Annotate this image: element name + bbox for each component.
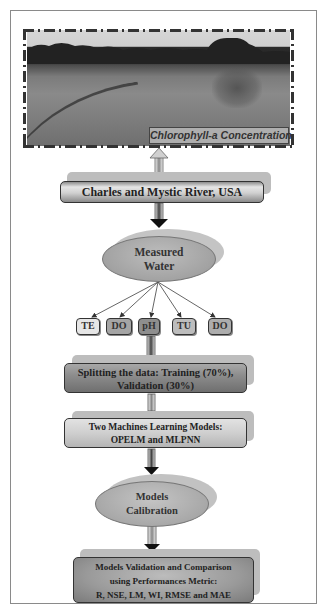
ml-models-box: Two Machines Learning Models: OPELM and …: [64, 418, 247, 448]
measured-water-node: Measured Water: [102, 236, 216, 282]
variable-do-2: DO: [208, 318, 232, 335]
calibration-node: Models Calibration: [95, 481, 209, 527]
validation-line2: using Performances Metric:: [74, 574, 253, 588]
validation-line3: R, NSE, LM, WI, RMSE and MAE: [74, 588, 253, 602]
measured-water-line1: Measured: [103, 245, 215, 259]
ml-models-line1: Two Machines Learning Models:: [65, 421, 246, 434]
splitting-line1: Splitting the data: Training (70%),: [65, 366, 246, 379]
splitting-box: Splitting the data: Training (70%), Vali…: [64, 363, 247, 393]
validation-box: Models Validation and Comparison using P…: [73, 557, 254, 603]
validation-line1: Models Validation and Comparison: [74, 560, 253, 574]
connector-bar: [148, 394, 155, 411]
variable-ph: pH: [138, 318, 160, 335]
variable-te: TE: [76, 318, 100, 335]
location-box: Charles and Mystic River, USA: [60, 181, 264, 203]
arrow-down-icon: [144, 525, 160, 552]
variable-tu: TU: [172, 318, 196, 335]
fan-connectors: [92, 282, 215, 317]
variable-do: DO: [106, 318, 132, 335]
measured-water-line2: Water: [103, 259, 215, 273]
calibration-line1: Models: [96, 490, 208, 504]
arrow-down-icon: [150, 203, 168, 228]
ml-models-line2: OPELM and MLPNN: [65, 434, 246, 447]
arrow-down-icon: [144, 449, 159, 475]
calibration-line2: Calibration: [96, 504, 208, 518]
splitting-line2: Validation (30%): [65, 379, 246, 392]
